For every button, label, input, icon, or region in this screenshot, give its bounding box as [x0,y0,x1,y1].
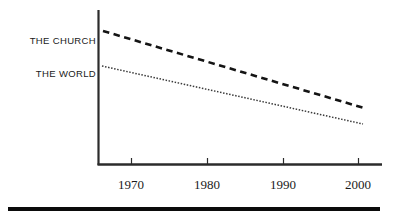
footer-rule [8,207,380,211]
x-tick-label-1970: 1970 [118,178,144,191]
x-tick-label-1990: 1990 [270,178,296,191]
series-line-world [102,66,363,124]
x-tick-label-2000: 2000 [345,178,371,191]
x-tick-label-1980: 1980 [194,178,220,191]
chart-figure: THE CHURCH THE WORLD 1970 1980 1990 2000 [0,0,394,222]
series-line-church [103,31,364,108]
